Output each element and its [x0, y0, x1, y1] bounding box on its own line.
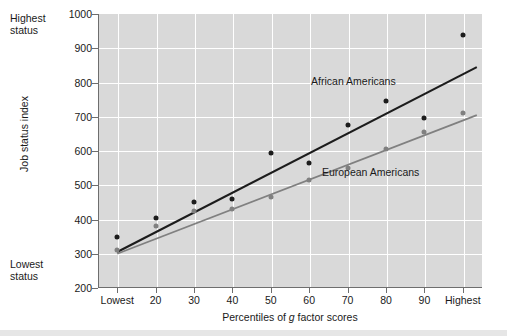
y-tick-label: 300: [46, 249, 92, 260]
x-tick-mark: [194, 288, 195, 293]
data-point: [153, 215, 158, 220]
y-tick-mark: [92, 83, 98, 84]
x-tick-mark: [348, 288, 349, 293]
data-point: [268, 150, 273, 155]
x-tick-label: 40: [227, 294, 239, 306]
gridline-vertical: [157, 14, 158, 287]
x-tick-mark: [271, 288, 272, 293]
footer-strip: [0, 330, 507, 336]
data-point: [422, 130, 427, 135]
y-tick-mark: [92, 288, 98, 289]
y-tick-label-wrap: 900: [0, 43, 92, 54]
y-tick-label-wrap: 600: [0, 146, 92, 157]
data-point: [422, 116, 427, 121]
y-tick-label-wrap: 300: [0, 249, 92, 260]
chart-figure: Highest status Lowest status Job status …: [0, 0, 507, 336]
x-tick-label: 30: [188, 294, 200, 306]
x-tick-label: Lowest: [101, 294, 134, 306]
x-tick-label: 90: [419, 294, 431, 306]
gridline-vertical: [195, 14, 196, 287]
series-label-african-americans: African Americans: [311, 75, 396, 87]
x-tick-label: 50: [265, 294, 277, 306]
y-tick-label: 400: [46, 215, 92, 226]
x-tick-label: 60: [303, 294, 315, 306]
y-tick-label: 800: [46, 78, 92, 89]
x-tick-label: 70: [342, 294, 354, 306]
data-point: [460, 111, 465, 116]
x-axis-title-pre: Percentiles of: [222, 311, 289, 323]
data-point: [230, 196, 235, 201]
x-axis-title: Percentiles of g factor scores: [98, 311, 482, 323]
data-point: [192, 200, 197, 205]
x-tick-mark: [117, 288, 118, 293]
y-tick-label: 1000: [46, 9, 92, 20]
data-point: [115, 248, 120, 253]
x-tick-mark: [156, 288, 157, 293]
y-tick-label-wrap: 500: [0, 180, 92, 191]
series-label-european-americans: European Americans: [322, 166, 419, 178]
y-tick-mark: [92, 48, 98, 49]
x-tick-label: 80: [380, 294, 392, 306]
y-tick-mark: [92, 185, 98, 186]
gridline-vertical: [118, 14, 119, 287]
y-tick-label: 500: [46, 180, 92, 191]
x-tick-label: Highest: [445, 294, 481, 306]
data-point: [268, 195, 273, 200]
data-point: [460, 32, 465, 37]
data-point: [307, 178, 312, 183]
y-tick-mark: [92, 220, 98, 221]
x-tick-mark: [309, 288, 310, 293]
data-point: [345, 123, 350, 128]
y-tick-label-wrap: 200: [0, 283, 92, 294]
y-tick-mark: [92, 151, 98, 152]
gridline-vertical: [310, 14, 311, 287]
y-tick-mark: [92, 14, 98, 15]
x-tick-mark: [424, 288, 425, 293]
x-tick-mark: [463, 288, 464, 293]
data-point: [153, 224, 158, 229]
x-tick-mark: [232, 288, 233, 293]
y-tick-label: 700: [46, 112, 92, 123]
y-tick-mark: [92, 254, 98, 255]
y-tick-label: 600: [46, 146, 92, 157]
y-tick-label: 200: [46, 283, 92, 294]
gridline-vertical: [349, 14, 350, 287]
data-point: [307, 160, 312, 165]
x-tick-mark: [386, 288, 387, 293]
data-point: [230, 207, 235, 212]
gridline-vertical: [425, 14, 426, 287]
y-tick-label-wrap: 700: [0, 112, 92, 123]
plot-area: [98, 14, 482, 288]
y-tick-mark: [92, 117, 98, 118]
x-tick-label: 20: [150, 294, 162, 306]
y-tick-label: 900: [46, 43, 92, 54]
y-tick-label-wrap: 800: [0, 78, 92, 89]
data-point: [384, 147, 389, 152]
data-point: [115, 234, 120, 239]
y-axis-low-annotation: Lowest status: [10, 258, 43, 282]
x-axis-title-post: factor scores: [295, 311, 358, 323]
data-point: [384, 99, 389, 104]
y-axis-title: Job status index: [18, 74, 30, 194]
data-point: [192, 208, 197, 213]
y-tick-label-wrap: 1000: [0, 9, 92, 20]
gridline-vertical: [464, 14, 465, 287]
y-tick-label-wrap: 400: [0, 215, 92, 226]
gridline-vertical: [233, 14, 234, 287]
